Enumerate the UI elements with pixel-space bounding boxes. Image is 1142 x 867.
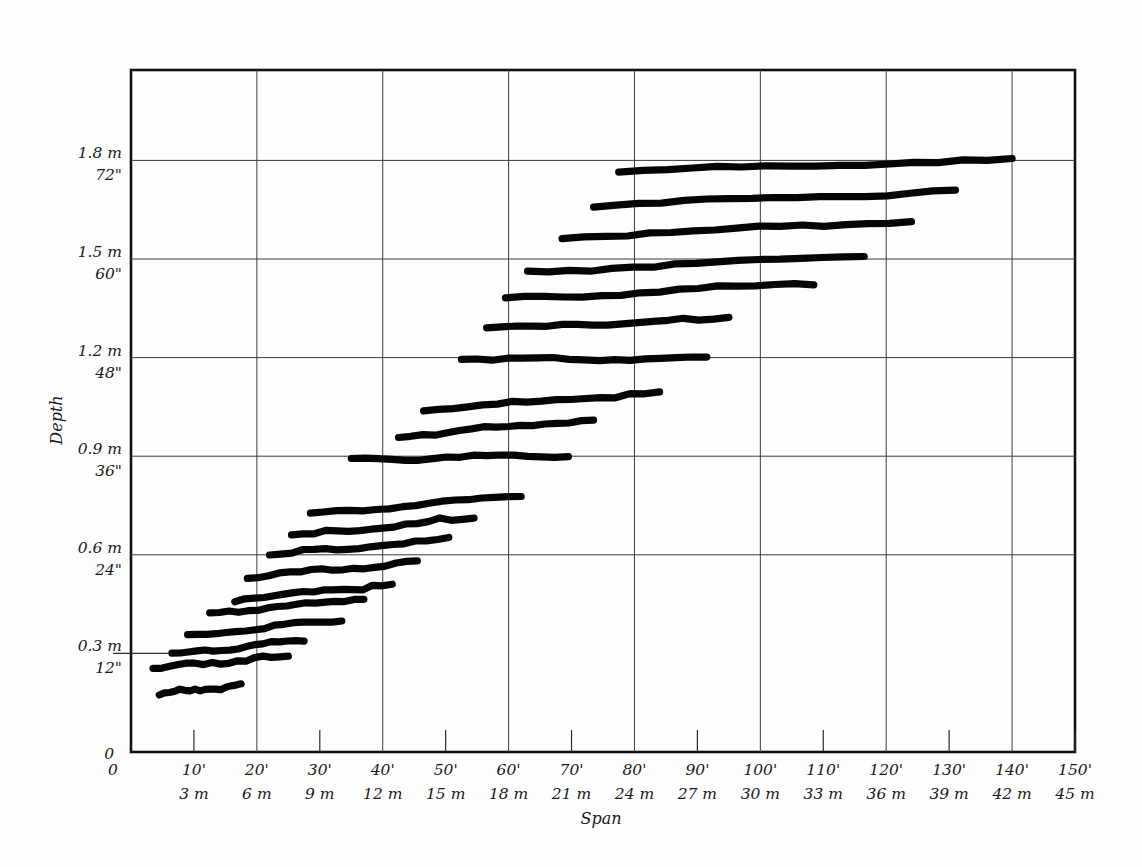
data-line-band-13 [424,392,660,411]
x-tick-label-6m: 6 m [242,785,272,803]
x-tick-label-45m: 45 m [1054,785,1094,803]
y-tick-label-0.9m: 0.9 m [78,440,122,458]
data-line-band-08 [270,538,449,556]
depth-span-chart: 10'3 m20'6 m30'9 m40'12 m50'15 m60'18 m7… [0,0,1142,867]
x-tick-label-110ft: 110' [806,761,840,779]
y-tick-label-0.6m: 0.6 m [78,539,122,557]
x-tick-label-9m: 9 m [305,785,335,803]
x-tick-label-130ft: 130' [932,761,966,779]
y-tick-label-60in: 60" [95,265,122,283]
y-axis-tick-labels: 0.3 m12"0.6 m24"0.9 m36"1.2 m48"1.5 m60"… [78,144,122,677]
data-line-band-14 [461,357,706,361]
y-axis-title: Depth [47,395,66,445]
x-tick-label-50ft: 50' [434,761,458,779]
y-tick-label-24in: 24" [94,561,122,579]
x-tick-label-80ft: 80' [622,761,646,779]
y-tick-label-36in: 36" [95,462,122,480]
x-tick-label-20ft: 20' [244,761,269,779]
x-tick-label-27m: 27 m [677,785,717,803]
x-tick-label-150ft: 150' [1058,761,1092,779]
x-tick-label-21m: 21 m [551,785,591,803]
x-tick-label-60ft: 60' [497,761,521,779]
y-tick-label-72in: 72" [95,166,122,184]
x-tick-label-30m: 30 m [741,785,780,803]
x-tick-label-24m: 24 m [614,785,654,803]
x-axis-tick-labels: 10'3 m20'6 m30'9 m40'12 m50'15 m60'18 m7… [179,761,1094,803]
data-line-band-11 [351,455,568,460]
x-tick-label-12m: 12 m [363,785,402,803]
data-line-band-03 [172,641,304,654]
y-tick-label-12in: 12" [95,659,122,677]
data-line-band-01 [159,684,241,695]
x-tick-label-33m: 33 m [804,785,843,803]
data-line-band-18 [562,222,911,239]
data-line-band-12 [399,420,594,437]
data-line-group [153,159,1012,696]
data-line-band-19 [594,190,956,207]
y-tick-label-1.8m: 1.8 m [78,144,122,162]
x-tick-label-120ft: 120' [869,761,903,779]
y-tick-label-1.5m: 1.5 m [78,243,122,261]
chart-canvas: 10'3 m20'6 m30'9 m40'12 m50'15 m60'18 m7… [0,0,1142,867]
y-tick-label-0.3m: 0.3 m [78,637,122,655]
data-line-band-06 [235,584,392,602]
x-tick-label-36m: 36 m [867,785,906,803]
x-tick-label-18m: 18 m [489,785,528,803]
x-axis-title: Span [580,809,621,828]
x-tick-label-140ft: 140' [995,761,1029,779]
x-tick-label-39m: 39 m [929,785,968,803]
x-axis-origin-label: 0 [108,761,118,779]
y-axis-origin-label: 0 [104,745,114,763]
x-tick-label-30ft: 30' [308,761,332,779]
x-tick-label-40ft: 40' [370,761,395,779]
plot-frame [131,70,1075,752]
x-tick-label-10ft: 10' [182,761,206,779]
y-tick-label-1.2m: 1.2 m [78,342,122,360]
x-tick-label-70ft: 70' [560,761,584,779]
data-line-band-16 [506,284,814,298]
data-line-band-07 [247,561,417,579]
data-line-band-15 [487,317,729,328]
x-tick-label-100ft: 100' [743,761,777,779]
x-tick-label-42m: 42 m [991,785,1031,803]
data-line-band-02 [153,656,288,668]
data-line-band-04 [188,621,342,635]
x-tick-label-90ft: 90' [685,761,709,779]
y-tick-label-48in: 48" [94,364,122,382]
data-line-band-10 [310,497,521,514]
x-tick-label-3m: 3 m [179,785,209,803]
x-tick-label-15m: 15 m [426,785,465,803]
